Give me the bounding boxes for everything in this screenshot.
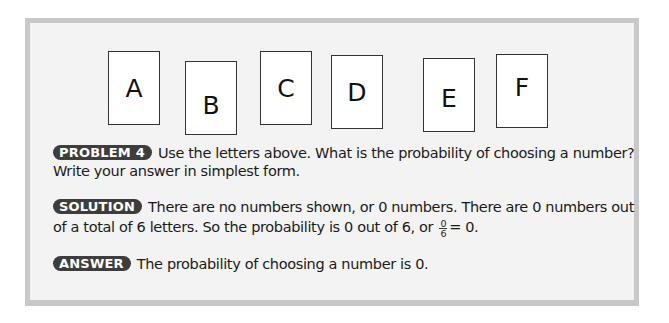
- problem-text-2: Write your answer in simplest form.: [53, 163, 300, 179]
- fraction: 06: [439, 219, 447, 238]
- problem-line-1: PROBLEM 4Use the letters above. What is …: [53, 144, 634, 162]
- solution-badge: SOLUTION: [53, 199, 142, 214]
- card-letter: F: [515, 73, 529, 102]
- problem-badge: PROBLEM 4: [53, 145, 152, 160]
- letter-card-f: F: [496, 54, 548, 128]
- card-letter: B: [202, 91, 219, 120]
- answer-text: The probability of choosing a number is …: [137, 256, 429, 272]
- solution-result: = 0.: [449, 219, 478, 235]
- answer-badge: ANSWER: [53, 256, 131, 271]
- fraction-denominator: 6: [439, 229, 447, 238]
- problem-text: Use the letters above. What is the proba…: [158, 145, 635, 161]
- card-letter: D: [347, 78, 366, 107]
- letter-card-e: E: [423, 58, 475, 132]
- card-letter: C: [277, 74, 294, 103]
- answer-line: ANSWERThe probability of choosing a numb…: [53, 255, 428, 273]
- problem-line-2: Write your answer in simplest form.: [53, 162, 300, 180]
- letter-card-d: D: [331, 55, 383, 129]
- letter-card-a: A: [108, 51, 160, 125]
- solution-line-1: SOLUTIONThere are no numbers shown, or 0…: [53, 198, 634, 216]
- fraction-numerator: 0: [439, 219, 447, 229]
- solution-text-2: of a total of 6 letters. So the probabil…: [53, 219, 433, 235]
- card-letter: E: [441, 84, 457, 113]
- solution-text: There are no numbers shown, or 0 numbers…: [148, 199, 634, 215]
- letter-card-b: B: [185, 61, 237, 135]
- solution-line-2: of a total of 6 letters. So the probabil…: [53, 218, 478, 238]
- letter-card-c: C: [260, 51, 312, 125]
- card-letter: A: [125, 74, 142, 103]
